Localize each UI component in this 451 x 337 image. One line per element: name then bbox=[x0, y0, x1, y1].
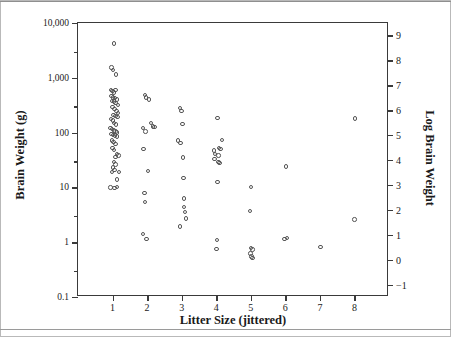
top-rule bbox=[0, 1, 451, 2]
x-axis-tick-label: 8 bbox=[352, 302, 357, 313]
data-point bbox=[113, 155, 117, 159]
data-point bbox=[141, 147, 145, 151]
data-point bbox=[182, 205, 186, 209]
y-axis-right-tick bbox=[387, 285, 393, 286]
data-point bbox=[181, 155, 185, 159]
data-point bbox=[184, 216, 188, 220]
data-point bbox=[143, 200, 147, 204]
y-axis-left-minor-tick bbox=[74, 106, 78, 107]
x-axis-tick bbox=[354, 295, 355, 301]
y-axis-left-tick bbox=[72, 23, 78, 24]
y-axis-left-tick-label: 0.1 bbox=[57, 292, 69, 302]
data-point bbox=[318, 245, 322, 249]
data-point bbox=[284, 164, 288, 168]
data-point bbox=[214, 247, 218, 251]
y-axis-right-tick bbox=[387, 60, 393, 61]
data-point bbox=[218, 147, 222, 151]
data-point bbox=[352, 217, 356, 221]
data-point bbox=[117, 170, 121, 174]
data-point bbox=[248, 209, 252, 213]
y-axis-left-tick-label: 1,000 bbox=[48, 73, 69, 83]
data-point bbox=[142, 191, 146, 195]
data-point bbox=[179, 109, 183, 113]
y-axis-left-minor-tick bbox=[74, 216, 78, 217]
y-axis-right-tick-label: 9 bbox=[396, 30, 401, 41]
y-axis-left-tick bbox=[72, 78, 78, 79]
scatter-plot-figure: 10,0001,0001001010.1 9876543210−1 123456… bbox=[0, 0, 451, 337]
data-point bbox=[112, 41, 116, 45]
y-axis-right-tick bbox=[387, 160, 393, 161]
plot-area: 10,0001,0001001010.1 9876543210−1 123456… bbox=[77, 22, 388, 296]
x-axis-title: Litter Size (jittered) bbox=[180, 313, 286, 328]
y-axis-right-tick bbox=[387, 35, 393, 36]
y-axis-left-minor-tick bbox=[74, 271, 78, 272]
x-axis-tick bbox=[251, 295, 252, 301]
data-point bbox=[152, 125, 156, 129]
y-axis-right-tick bbox=[387, 235, 393, 236]
y-axis-left-tick-label: 10 bbox=[60, 182, 70, 192]
bottom-rule bbox=[0, 329, 451, 330]
y-axis-left-tick bbox=[72, 187, 78, 188]
data-point bbox=[249, 185, 253, 189]
data-point bbox=[114, 122, 118, 126]
y-axis-right-tick-label: 0 bbox=[396, 254, 401, 265]
y-axis-right-tick bbox=[387, 85, 393, 86]
y-axis-left-minor-tick bbox=[74, 161, 78, 162]
x-axis-tick bbox=[216, 295, 217, 301]
y-axis-right-tick bbox=[387, 110, 393, 111]
y-axis-left-tick-label: 1 bbox=[64, 237, 69, 247]
x-axis-tick-label: 2 bbox=[145, 302, 150, 313]
data-point bbox=[143, 129, 147, 133]
data-point bbox=[215, 116, 219, 120]
y-axis-left-title: Brain Weight (g) bbox=[13, 110, 28, 199]
x-axis-tick-label: 4 bbox=[214, 302, 219, 313]
y-axis-left-tick-label: 100 bbox=[55, 128, 69, 138]
data-point bbox=[178, 224, 182, 228]
y-axis-right-tick bbox=[387, 185, 393, 186]
y-axis-right-tick-label: 5 bbox=[396, 130, 401, 141]
data-point bbox=[215, 238, 219, 242]
x-axis-tick-label: 3 bbox=[179, 302, 184, 313]
data-point bbox=[183, 210, 187, 214]
data-point bbox=[141, 232, 145, 236]
y-axis-left-tick bbox=[72, 242, 78, 243]
x-axis-tick-label: 1 bbox=[110, 302, 115, 313]
y-axis-right-tick-label: 7 bbox=[396, 80, 401, 91]
y-axis-right-tick-label: −1 bbox=[396, 279, 407, 290]
x-axis-tick bbox=[182, 295, 183, 301]
data-point bbox=[220, 138, 224, 142]
x-axis-tick bbox=[147, 295, 148, 301]
y-axis-right-tick bbox=[387, 260, 393, 261]
data-point bbox=[114, 72, 118, 76]
data-point bbox=[113, 88, 117, 92]
y-axis-left-minor-tick bbox=[74, 52, 78, 53]
data-point bbox=[115, 185, 119, 189]
x-axis-tick bbox=[285, 295, 286, 301]
data-point bbox=[178, 141, 182, 145]
y-axis-right-tick bbox=[387, 135, 393, 136]
data-point bbox=[180, 122, 184, 126]
y-axis-left-tick bbox=[72, 133, 78, 134]
y-axis-right-tick bbox=[387, 210, 393, 211]
data-point bbox=[110, 170, 114, 174]
x-axis-tick-label: 6 bbox=[283, 302, 288, 313]
data-point bbox=[115, 177, 119, 181]
data-point bbox=[285, 236, 289, 240]
data-point bbox=[115, 134, 119, 138]
data-point bbox=[182, 196, 186, 200]
data-points-layer bbox=[78, 23, 387, 295]
x-axis-tick-label: 5 bbox=[248, 302, 253, 313]
y-axis-right-tick-label: 6 bbox=[396, 105, 401, 116]
x-axis-tick-label: 7 bbox=[317, 302, 322, 313]
data-point bbox=[181, 176, 185, 180]
data-point bbox=[217, 161, 221, 165]
data-point bbox=[216, 153, 220, 157]
data-point bbox=[115, 115, 119, 119]
y-axis-right-title: Log Brain Weight bbox=[422, 110, 437, 206]
y-axis-right-tick-label: 4 bbox=[396, 155, 401, 166]
y-axis-right-tick-label: 1 bbox=[396, 229, 401, 240]
y-axis-left-tick bbox=[72, 297, 78, 298]
data-point bbox=[146, 169, 150, 173]
y-axis-right-tick-label: 8 bbox=[396, 55, 401, 66]
x-axis-tick bbox=[113, 295, 114, 301]
